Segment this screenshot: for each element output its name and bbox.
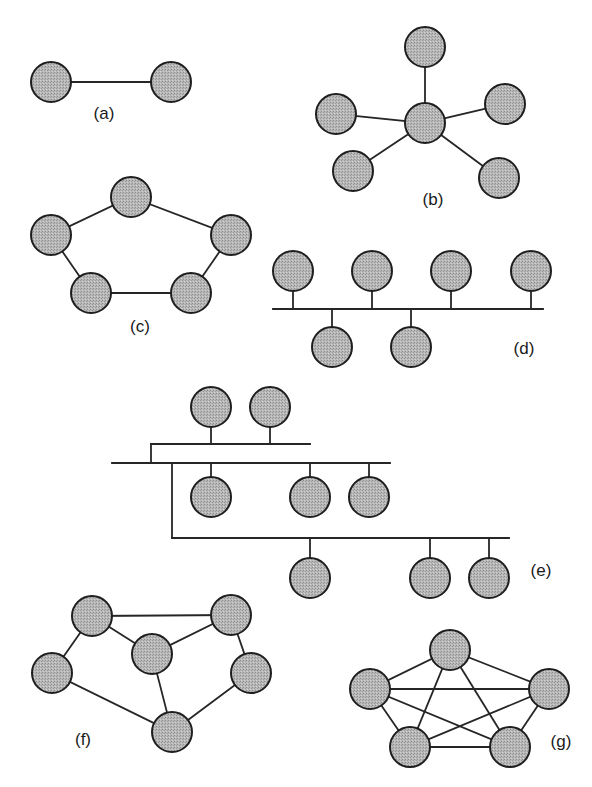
network-node [273, 251, 313, 291]
network-node [529, 669, 569, 709]
network-node [511, 251, 551, 291]
network-node [469, 558, 509, 598]
panel-b-star: (b) [316, 27, 525, 209]
network-node [111, 177, 151, 217]
network-node [171, 273, 211, 313]
network-node [352, 251, 392, 291]
network-node [490, 727, 530, 767]
network-node [430, 630, 470, 670]
panel-label: (c) [130, 317, 150, 336]
network-node [290, 477, 330, 517]
network-node [211, 595, 251, 635]
network-node [312, 327, 352, 367]
network-node [191, 387, 231, 427]
network-node [71, 273, 111, 313]
panel-label: (g) [551, 732, 572, 751]
network-node [152, 712, 192, 752]
network-node [350, 669, 390, 709]
panel-label: (d) [514, 339, 535, 358]
network-node [72, 596, 112, 636]
network-node [349, 477, 389, 517]
panel-label: (e) [531, 561, 552, 580]
panel-d-bus: (d) [273, 251, 551, 367]
panel-e-tree: (e) [112, 387, 551, 598]
network-node [333, 151, 373, 191]
network-node [390, 727, 430, 767]
network-node [410, 558, 450, 598]
network-node [32, 653, 72, 693]
panel-label: (a) [94, 104, 115, 123]
panel-c-ring: (c) [31, 177, 251, 336]
network-node [431, 251, 471, 291]
network-node [31, 215, 71, 255]
panel-a-point-to-point: (a) [31, 62, 191, 123]
network-node [132, 634, 172, 674]
network-node [151, 62, 191, 102]
network-node [290, 558, 330, 598]
network-node [485, 84, 525, 124]
network-node [31, 62, 71, 102]
panel-label: (b) [423, 190, 444, 209]
network-node [391, 327, 431, 367]
network-node [191, 477, 231, 517]
network-topologies-diagram: (a) (b) (c) (d) (e) (f) (g) [0, 0, 592, 787]
network-node [250, 387, 290, 427]
network-node [405, 27, 445, 67]
network-node [405, 103, 445, 143]
network-node [316, 94, 356, 134]
network-node [211, 215, 251, 255]
panel-f-mesh: (f) [32, 595, 271, 752]
panel-label: (f) [75, 730, 91, 749]
network-node [231, 653, 271, 693]
panel-g-fully-connected: (g) [350, 630, 571, 767]
network-node [479, 158, 519, 198]
